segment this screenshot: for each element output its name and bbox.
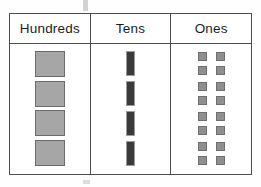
ones-unit-block <box>216 126 225 135</box>
ones-unit-group <box>198 112 225 135</box>
ones-unit-block <box>198 156 207 165</box>
ones-unit-block <box>216 156 225 165</box>
ones-unit-block <box>198 96 207 105</box>
tens-column-cell <box>90 44 171 174</box>
ones-unit-block <box>216 52 225 61</box>
ones-unit-block <box>216 142 225 151</box>
bottom-tick-mark <box>83 180 90 184</box>
top-tick-mark <box>83 0 88 11</box>
ones-unit-block <box>216 66 225 75</box>
ones-unit-group <box>198 142 225 165</box>
place-value-chart: Hundreds Tens Ones <box>9 13 252 175</box>
chart-header-row: Hundreds Tens Ones <box>10 14 251 44</box>
ones-unit-block <box>198 82 207 91</box>
column-header-hundreds-label: Hundreds <box>20 21 80 36</box>
tens-rod-block <box>126 141 135 166</box>
tens-rod-block <box>126 111 135 136</box>
column-header-hundreds: Hundreds <box>10 14 90 43</box>
hundreds-flat-block <box>35 81 65 107</box>
ones-unit-block <box>216 82 225 91</box>
hundreds-flat-block <box>35 51 65 77</box>
ones-unit-block <box>198 112 207 121</box>
ones-unit-block <box>198 66 207 75</box>
ones-unit-block <box>216 112 225 121</box>
tens-rod-block <box>126 51 135 76</box>
chart-body-row <box>10 44 251 174</box>
ones-unit-group <box>198 52 225 75</box>
hundreds-column-cell <box>10 44 90 174</box>
column-header-tens-label: Tens <box>116 21 145 36</box>
tens-rod-block <box>126 81 135 106</box>
column-header-ones: Ones <box>170 14 251 43</box>
ones-unit-block <box>198 126 207 135</box>
ones-column-cell <box>170 44 251 174</box>
ones-unit-block <box>198 142 207 151</box>
ones-unit-block <box>216 96 225 105</box>
column-header-ones-label: Ones <box>195 21 228 36</box>
hundreds-flat-block <box>35 110 65 136</box>
ones-unit-block <box>198 52 207 61</box>
column-header-tens: Tens <box>90 14 171 43</box>
ones-unit-group <box>198 82 225 105</box>
hundreds-flat-block <box>35 140 65 166</box>
